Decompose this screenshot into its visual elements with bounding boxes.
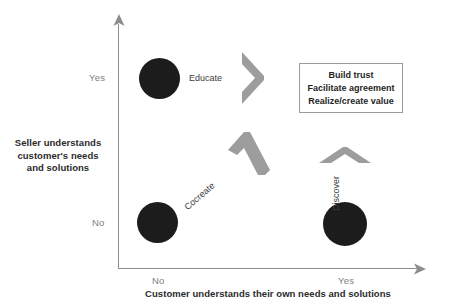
flow-label-cocreate: Cocreate (182, 180, 216, 212)
callout-line-realize-create-value: Realize/create value (308, 95, 394, 108)
data-point-no-yes (139, 58, 180, 99)
quadrant-diagram: Yes No No Yes Seller understands custome… (0, 0, 461, 305)
y-axis-title-line-2: customer's needs (4, 150, 112, 163)
y-axis-title: Seller understands customer's needs and … (4, 137, 112, 175)
flow-label-educate: Educate (189, 73, 222, 83)
chevron-right-icon (238, 50, 270, 106)
flow-label-discover: Discover (331, 176, 341, 211)
x-axis-title: Customer understands their own needs and… (118, 288, 418, 301)
callout-box: Build trust Facilitate agreement Realize… (299, 63, 403, 113)
data-point-yes-no (323, 202, 367, 246)
x-axis-line (118, 268, 418, 269)
callout-line-build-trust: Build trust (329, 69, 374, 82)
x-tick-yes: Yes (338, 275, 354, 286)
x-axis-arrowhead (412, 262, 426, 276)
y-axis-title-line-1: Seller understands (4, 137, 112, 150)
data-point-no-no (137, 202, 178, 243)
chevron-up-icon (317, 145, 373, 169)
y-axis-line (118, 24, 119, 269)
y-axis-title-line-3: and solutions (4, 162, 112, 175)
x-tick-no: No (152, 275, 165, 286)
chevron-diagonal-up-right-icon (226, 128, 274, 178)
callout-line-facilitate-agreement: Facilitate agreement (307, 82, 394, 95)
y-axis-arrowhead (112, 14, 126, 28)
y-tick-no: No (92, 217, 105, 228)
y-tick-yes: Yes (89, 72, 105, 83)
